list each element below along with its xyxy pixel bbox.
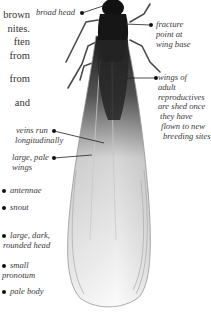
label-text: antennae <box>10 185 42 195</box>
label-text: wing base <box>156 40 191 50</box>
label-pronotum: small pronotum <box>2 261 35 281</box>
label-pale-body: pale body <box>10 287 44 297</box>
label-broad-head: broad head <box>36 8 75 18</box>
label-fracture-point: fracture point at wing base <box>156 20 191 49</box>
label-antennae: antennae <box>10 186 42 196</box>
label-large-pale-wings: large, pale wings <box>12 153 49 173</box>
label-veins: veins run longitudinally <box>15 126 63 146</box>
label-snout: snout <box>10 203 29 213</box>
label-text: rounded head <box>3 241 50 251</box>
bullet-dot <box>2 189 6 193</box>
label-wings-shed: wings of adult reproductives are shed on… <box>158 73 211 142</box>
label-text: pronotum <box>2 271 35 281</box>
label-dark-head: large, dark, rounded head <box>3 231 50 251</box>
label-text: breeding sites <box>158 132 211 142</box>
label-text: longitudinally <box>15 136 63 146</box>
label-text: wings <box>12 163 49 173</box>
label-text: pale body <box>10 286 44 296</box>
leader-dot <box>52 156 56 160</box>
label-text: snout <box>10 202 29 212</box>
leader-dot <box>149 23 153 27</box>
bullet-dot <box>2 290 6 294</box>
bullet-dot <box>2 206 6 210</box>
leader-dot <box>80 11 84 15</box>
label-text: broad head <box>36 7 75 17</box>
field-guide-page: brown nites. ften from from and <box>0 0 211 312</box>
